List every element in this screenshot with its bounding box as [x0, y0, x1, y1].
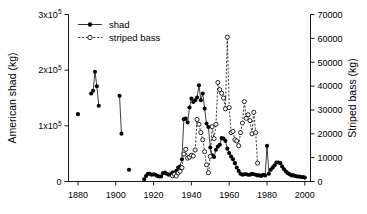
series-line-segment — [120, 96, 122, 134]
data-point-marker — [252, 110, 256, 114]
data-point-marker — [180, 166, 184, 170]
x-tick-label: 2000 — [295, 190, 315, 200]
data-point-marker — [233, 161, 237, 165]
data-point-marker — [221, 96, 225, 100]
x-tick-label: 1900 — [106, 190, 126, 200]
series-line-segment — [199, 85, 201, 100]
data-point-marker — [216, 80, 220, 84]
data-point-marker — [212, 137, 216, 141]
data-point-marker — [184, 117, 188, 121]
series-line-segment — [256, 133, 258, 164]
series-line-segment — [93, 72, 95, 91]
data-point-marker — [218, 143, 222, 147]
data-point-marker — [231, 157, 235, 161]
legend: shadstriped bass — [78, 19, 160, 43]
data-point-marker — [210, 125, 214, 129]
y2-axis-title: Striped bass (kg) — [346, 58, 358, 137]
data-point-marker — [195, 95, 199, 99]
data-point-marker — [184, 147, 188, 151]
series-line-segment — [205, 109, 207, 124]
y-tick-label: 0 — [56, 177, 61, 187]
data-point-marker — [204, 163, 208, 167]
data-point-marker — [187, 105, 191, 109]
data-point-marker — [182, 152, 186, 156]
data-point-marker — [231, 129, 235, 133]
x-tick-label: 1880 — [68, 190, 88, 200]
data-point-marker — [267, 172, 271, 176]
data-point-marker — [214, 122, 218, 126]
data-point-marker — [93, 70, 97, 74]
data-point-marker — [199, 98, 203, 102]
y2-tick-label: 70000 — [318, 10, 343, 20]
chart-figure: 188019001920194019601980200001x1052x1053… — [0, 0, 367, 214]
series-line-segment — [267, 146, 269, 174]
x-tick-label: 1940 — [181, 190, 201, 200]
legend-label-1: striped bass — [109, 32, 160, 43]
y2-tick-label: 50000 — [318, 58, 343, 68]
data-point-marker — [242, 100, 246, 104]
y2-tick-label: 20000 — [318, 129, 343, 139]
data-point-marker — [191, 154, 195, 158]
data-point-marker — [203, 150, 207, 154]
series-line-segment — [227, 37, 229, 107]
y2-tick-label: 0 — [318, 177, 323, 187]
fishery-landings-chart: 188019001920194019601980200001x1052x1053… — [0, 0, 367, 214]
series-line-segment — [203, 94, 205, 109]
y-axis-title: American shad (kg) — [6, 52, 18, 143]
data-point-marker — [240, 121, 244, 125]
data-point-marker — [119, 132, 123, 136]
series-shad — [76, 70, 307, 182]
data-point-marker — [248, 119, 252, 123]
data-point-marker — [225, 147, 229, 151]
data-point-marker — [95, 84, 99, 88]
data-point-marker — [227, 105, 231, 109]
legend-marker-1 — [88, 35, 92, 39]
x-tick-label: 1920 — [144, 190, 164, 200]
data-point-marker — [193, 148, 197, 152]
y2-tick-label: 30000 — [318, 105, 343, 115]
legend-label-0: shad — [109, 19, 130, 30]
data-point-marker — [265, 144, 269, 148]
y-tick-label: 2x105 — [38, 64, 62, 76]
data-point-marker — [220, 91, 224, 95]
data-point-marker — [208, 145, 212, 149]
data-point-marker — [238, 131, 242, 135]
series-line-segment — [229, 108, 231, 133]
data-point-marker — [223, 139, 227, 143]
y2-tick-label: 10000 — [318, 153, 343, 163]
series-line-segment — [188, 107, 190, 122]
data-point-marker — [97, 104, 101, 108]
data-point-marker — [199, 131, 203, 135]
series-line-segment — [208, 127, 210, 148]
x-tick-label: 1980 — [257, 190, 277, 200]
legend-marker-0 — [88, 22, 92, 26]
data-point-marker — [195, 117, 199, 121]
data-point-marker — [127, 168, 131, 172]
data-point-marker — [235, 139, 239, 143]
x-tick-label: 1960 — [219, 190, 239, 200]
data-point-marker — [263, 173, 267, 177]
data-point-marker — [201, 138, 205, 142]
data-point-marker — [197, 122, 201, 126]
data-point-marker — [203, 107, 207, 111]
data-point-marker — [186, 120, 190, 124]
data-point-marker — [208, 154, 212, 158]
data-point-marker — [256, 161, 260, 165]
data-point-marker — [206, 171, 210, 175]
series-line-segment — [97, 86, 99, 105]
series-line-segment — [252, 112, 254, 133]
data-point-marker — [76, 112, 80, 116]
data-point-marker — [197, 83, 201, 87]
series-line-segment — [242, 102, 244, 123]
y2-tick-label: 60000 — [318, 34, 343, 44]
series-line-segment — [254, 112, 256, 132]
y-tick-label: 3x105 — [38, 8, 62, 20]
series-line-segment — [265, 146, 267, 176]
data-point-marker — [303, 176, 307, 180]
data-point-marker — [237, 144, 241, 148]
data-point-marker — [117, 94, 121, 98]
data-point-marker — [225, 35, 229, 39]
data-point-marker — [254, 131, 258, 135]
y2-tick-label: 40000 — [318, 81, 343, 91]
data-point-marker — [201, 91, 205, 95]
